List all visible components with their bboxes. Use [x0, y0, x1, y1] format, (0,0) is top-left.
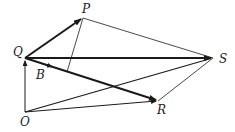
- vector-q-b: [40, 63, 52, 67]
- label-p: P: [81, 2, 91, 16]
- label-q: Q: [13, 45, 23, 59]
- edge-p-s: [83, 18, 213, 58]
- vector-diagram: P Q B S R O: [0, 0, 235, 132]
- label-r: R: [156, 103, 166, 117]
- label-o: O: [20, 115, 30, 129]
- label-s: S: [219, 52, 227, 66]
- diagram-svg: P Q B S R O: [0, 0, 235, 132]
- edge-r-s: [158, 58, 213, 101]
- label-b: B: [35, 68, 45, 82]
